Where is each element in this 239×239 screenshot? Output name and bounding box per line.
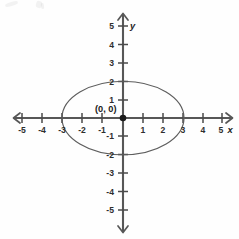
origin-point [120, 115, 127, 122]
y-tick-label: -2 [106, 150, 114, 160]
y-tick-label: -3 [106, 168, 114, 178]
x-tick-label: -4 [38, 125, 46, 135]
x-tick-label: -5 [18, 125, 26, 135]
coordinate-plane: -5 -4 -3 -2 -1 1 2 3 4 5 5 4 3 2 1 -1 -2… [0, 0, 239, 239]
y-tick-label: -1 [106, 131, 114, 141]
origin-label: (0, 0) [95, 104, 116, 114]
x-tick-label: 4 [201, 125, 206, 135]
x-tick-label: 5 [219, 125, 224, 135]
x-tick-label: 2 [161, 125, 166, 135]
y-tick-label: 3 [109, 58, 114, 68]
y-tick-label: 5 [109, 21, 114, 31]
y-tick-label: -5 [106, 205, 114, 215]
x-tick-label: 3 [181, 125, 186, 135]
x-tick-label: -3 [58, 125, 66, 135]
y-tick-label: -4 [106, 187, 114, 197]
x-tick-label: 1 [141, 125, 146, 135]
y-axis-label: y [129, 20, 136, 31]
x-axis-label: x [226, 124, 233, 135]
graph-canvas: -5 -4 -3 -2 -1 1 2 3 4 5 5 4 3 2 1 -1 -2… [0, 0, 239, 239]
y-tick-label: 2 [109, 77, 114, 87]
y-tick-label: 4 [109, 40, 114, 50]
x-tick-label: -1 [98, 125, 106, 135]
x-tick-label: -2 [78, 125, 86, 135]
